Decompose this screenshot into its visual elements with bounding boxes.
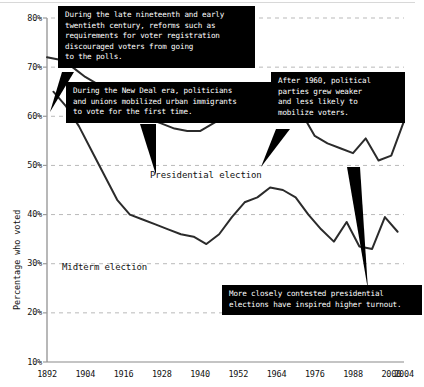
annotation-new-deal-mobilization: During the New Deal era, politicians and…: [66, 82, 278, 123]
annotation-contested-elections: More closely contested presidential elec…: [222, 285, 422, 315]
annotation-parties-grew-weaker: After 1960, political parties grew weake…: [271, 72, 405, 123]
callout-pointer-triangle: [347, 167, 368, 290]
annotation-registration-reforms: During the late nineteenth and early twe…: [58, 6, 255, 68]
